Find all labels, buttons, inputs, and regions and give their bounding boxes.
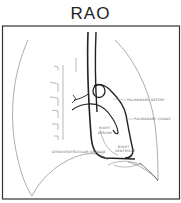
pulmonary-artery-ring [93,85,105,98]
label-right-ventricle-2: VENTRICLE [115,149,135,153]
label-pulmonary-artery: PULMONARY ARTERY [127,98,165,102]
right-atrium-contour [72,104,118,134]
diaphragm-line [108,161,142,167]
vessel-branch-small [72,95,76,103]
left-lung-outline [13,40,108,196]
rao-heart-diagram: PULMONARY ARTERY PULMONARY CONUS RIGHT A… [0,0,181,203]
svc-line [95,32,97,112]
label-right-atrium-2: ATRIUM [98,131,112,135]
label-right-atrium-1: RIGHT [99,126,110,130]
label-pulmonary-conus: PULMONARY CONUS [134,117,171,121]
label-av-groove: ATRIOVENTRICULAR GROOVE [52,150,106,154]
